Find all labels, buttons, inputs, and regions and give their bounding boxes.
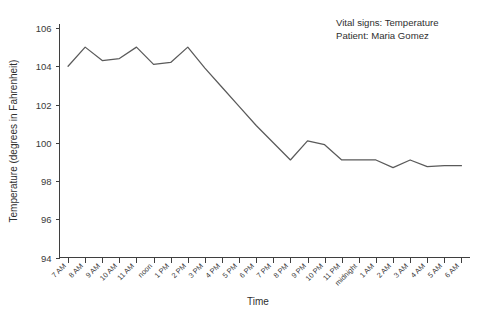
x-tick-label: 10 PM [304, 262, 325, 283]
x-tick-label: 7 AM [50, 262, 68, 280]
x-tick-label: 11 AM [115, 262, 136, 283]
y-tick-label: 100 [36, 138, 52, 149]
y-tick-group [56, 29, 60, 259]
y-tick-label: 104 [36, 61, 52, 72]
y-axis: 949698100102104106 [36, 23, 60, 264]
x-tick-label: noon [136, 262, 154, 280]
x-tick-label: 2 PM [170, 262, 188, 280]
x-tick-label: 2 AM [375, 262, 393, 280]
x-axis: 7 AM8 AM9 AM10 AM11 AMnoon1 PM2 PM3 PM4 … [50, 258, 470, 288]
y-tick-label: 98 [41, 176, 52, 187]
y-tick-label: 102 [36, 100, 52, 111]
annotation-patient: Patient: Maria Gomez [336, 30, 429, 41]
x-tick-label: 8 AM [67, 262, 85, 280]
x-tick-label: 6 AM [443, 262, 461, 280]
y-tick-label: 96 [41, 214, 52, 225]
x-tick-label: 8 PM [272, 262, 290, 280]
x-tick-label: 3 PM [187, 262, 205, 280]
x-axis-title: Time [247, 296, 269, 307]
y-tick-label-group: 949698100102104106 [36, 23, 52, 264]
temperature-chart: 949698100102104106 7 AM8 AM9 AM10 AM11 A… [0, 0, 487, 317]
x-tick-label-group: 7 AM8 AM9 AM10 AM11 AMnoon1 PM2 PM3 PM4 … [50, 262, 461, 288]
x-tick-label: 7 PM [255, 262, 273, 280]
annotation-vital-signs: Vital signs: Temperature [336, 17, 439, 28]
x-tick-label: 6 PM [238, 262, 256, 280]
x-tick-label: 1 AM [358, 262, 376, 280]
temperature-series-line [68, 47, 461, 167]
y-axis-title: Temperature (degrees in Fahrenheit) [8, 60, 19, 223]
x-tick-label: 10 AM [98, 262, 119, 283]
y-tick-label: 94 [41, 253, 52, 264]
x-tick-label: 5 PM [221, 262, 239, 280]
x-tick-label: 5 AM [426, 262, 444, 280]
x-tick-label: 4 PM [204, 262, 222, 280]
x-tick-label: 4 AM [409, 262, 427, 280]
x-tick-label: 3 AM [392, 262, 410, 280]
y-tick-label: 106 [36, 23, 52, 34]
chart-canvas: 949698100102104106 7 AM8 AM9 AM10 AM11 A… [0, 0, 487, 317]
x-tick-label: 1 PM [153, 262, 171, 280]
